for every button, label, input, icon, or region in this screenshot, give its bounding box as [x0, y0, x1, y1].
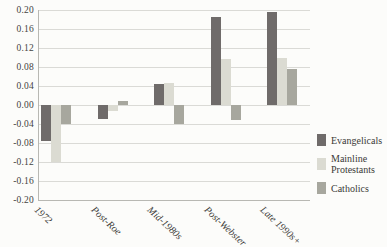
y-tick-label: -0.16 — [0, 176, 34, 186]
legend-label: MainlineProtestants — [331, 153, 375, 175]
legend-label: Evangelicals — [331, 135, 382, 146]
legend: EvangelicalsMainlineProtestantsCatholics — [317, 134, 382, 194]
gridline — [38, 143, 310, 144]
x-axis-label: Post-Roe — [89, 204, 123, 237]
y-tick-label: 0.12 — [0, 43, 34, 53]
y-tick-label: 0.00 — [0, 100, 34, 110]
legend-label: Catholics — [331, 183, 369, 194]
bar-mainline-protestants-1972 — [51, 105, 61, 162]
y-tick-label: 0.20 — [0, 5, 34, 15]
y-axis-line — [38, 10, 39, 200]
bar-evangelicals-post-webster — [211, 17, 221, 105]
legend-item-mainline-protestants: MainlineProtestants — [317, 153, 382, 175]
bar-mainline-protestants-post-roe — [108, 105, 118, 111]
bar-evangelicals-late-1990s+ — [267, 12, 277, 105]
gridline — [38, 200, 310, 201]
y-tick-label: -0.20 — [0, 195, 34, 205]
legend-item-catholics: Catholics — [317, 182, 382, 194]
x-axis-label: Mid-1980s — [145, 204, 184, 242]
legend-swatch-icon — [317, 158, 326, 170]
bar-catholics-post-roe — [118, 101, 128, 105]
y-tick-label: 0.04 — [0, 81, 34, 91]
bar-chart: 0.200.160.120.080.040.00-0.04-0.08-0.12-… — [0, 0, 387, 247]
x-axis-label: 1972 — [32, 204, 54, 226]
legend-swatch-icon — [317, 182, 326, 194]
gridline — [38, 124, 310, 125]
gridline — [38, 181, 310, 182]
y-tick-label: -0.08 — [0, 138, 34, 148]
gridline — [38, 10, 310, 11]
bar-mainline-protestants-post-webster — [221, 59, 231, 105]
y-tick-label: -0.12 — [0, 157, 34, 167]
y-tick-label: 0.16 — [0, 24, 34, 34]
bar-mainline-protestants-mid-1980s — [164, 83, 174, 105]
gridline — [38, 162, 310, 163]
x-axis-label: Late 1990s+ — [258, 204, 303, 247]
plot-area — [38, 10, 310, 200]
x-axis-label: Post-Webster — [202, 204, 248, 247]
bar-evangelicals-post-roe — [98, 105, 108, 119]
bar-catholics-late-1990s+ — [287, 69, 297, 105]
bar-catholics-1972 — [61, 105, 71, 124]
bar-evangelicals-mid-1980s — [154, 84, 164, 105]
y-tick-label: -0.04 — [0, 119, 34, 129]
legend-item-evangelicals: Evangelicals — [317, 134, 382, 146]
y-tick-label: 0.08 — [0, 62, 34, 72]
bar-catholics-mid-1980s — [174, 105, 184, 124]
legend-swatch-icon — [317, 134, 326, 146]
bar-catholics-post-webster — [231, 105, 241, 120]
bar-evangelicals-1972 — [41, 105, 51, 141]
bar-mainline-protestants-late-1990s+ — [277, 58, 287, 105]
